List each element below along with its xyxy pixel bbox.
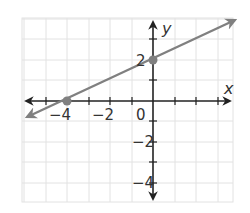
y-tick-label-2: 2: [136, 52, 146, 70]
x-tick-label-neg4: −4: [49, 106, 71, 124]
y-axis-label: y: [161, 19, 172, 38]
plotted-line: [27, 20, 235, 117]
coordinate-graph: x y 2 −4 −2 0 −2 −4: [0, 0, 250, 213]
origin-label: 0: [136, 106, 146, 124]
point-y-intercept: [149, 56, 158, 65]
y-tick-label-neg2: −2: [132, 133, 154, 151]
y-tick-label-neg4: −4: [132, 174, 154, 192]
point-x-intercept: [63, 97, 72, 106]
x-tick-label-neg2: −2: [92, 106, 114, 124]
x-axis-label: x: [223, 79, 234, 98]
